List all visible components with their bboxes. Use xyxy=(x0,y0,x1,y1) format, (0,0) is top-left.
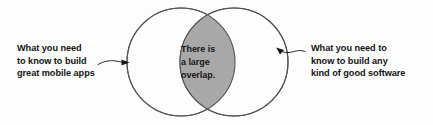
left-circle-label-line-3: great mobile apps xyxy=(17,67,95,80)
overlap-label-line-3: overlap. xyxy=(181,69,215,82)
overlap-label-line-2: a large xyxy=(181,56,215,69)
overlap-label: There is a large overlap. xyxy=(181,43,215,82)
right-circle-label: What you need to know to build any kind … xyxy=(311,42,405,80)
left-circle-label-line-2: to know to build xyxy=(17,55,95,68)
overlap-label-line-1: There is xyxy=(181,43,215,56)
right-circle-label-line-3: kind of good software xyxy=(311,67,405,80)
right-circle-label-line-1: What you need to xyxy=(311,42,405,55)
left-circle-label-line-1: What you need xyxy=(17,42,95,55)
wavy-arrow-right-icon xyxy=(98,59,130,65)
right-circle-label-line-2: know to build any xyxy=(311,55,405,68)
left-circle-label: What you need to know to build great mob… xyxy=(17,42,95,80)
venn-diagram-canvas: What you need to know to build great mob… xyxy=(0,0,433,125)
